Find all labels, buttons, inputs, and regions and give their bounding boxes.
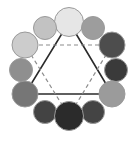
swatch-left-upper — [12, 32, 38, 58]
swatch-right-lower — [99, 81, 125, 107]
figure-container — [0, 0, 136, 142]
swatch-bottom-left — [34, 101, 57, 124]
swatch-right-middle — [105, 59, 128, 82]
swatch-bottom-center — [55, 102, 84, 131]
swatch-upper-right — [82, 17, 105, 40]
swatch-bottom-right — [82, 101, 105, 124]
swatch-left-middle — [10, 59, 33, 82]
nodes-layer — [10, 8, 128, 131]
swatch-right-upper — [99, 32, 125, 58]
swatch-upper-left — [34, 17, 57, 40]
swatch-top-center — [55, 8, 84, 37]
swatch-left-lower — [12, 81, 38, 107]
value-wheel-diagram — [0, 0, 136, 142]
